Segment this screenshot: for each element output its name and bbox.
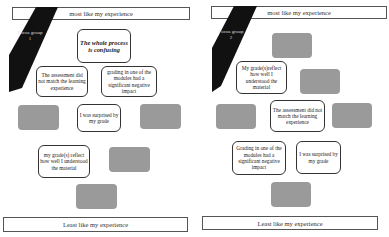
focus-group-label: Focus group 1 bbox=[16, 30, 44, 42]
statement-card: The assessment did not match the learnin… bbox=[36, 66, 88, 97]
statement-card: my grade(s) reflect how well I understoo… bbox=[38, 145, 90, 178]
empty-slot bbox=[140, 104, 181, 129]
focus-group-2-panel: most like my experience Focus group 2 My… bbox=[194, 0, 388, 237]
empty-slot bbox=[109, 147, 150, 172]
statement-card: I was surprised by my grade bbox=[296, 141, 341, 174]
empty-slot bbox=[272, 33, 312, 58]
statement-card: Grading in one of the modules had a sign… bbox=[232, 141, 286, 175]
statement-card: grading in one of the modules had a sign… bbox=[101, 66, 157, 97]
focus-group-label: Focus group 2 bbox=[218, 29, 244, 41]
bottom-label: Least like my experience bbox=[202, 216, 378, 230]
empty-slot bbox=[18, 105, 59, 130]
empty-slot bbox=[300, 69, 340, 94]
empty-slot bbox=[332, 103, 372, 128]
statement-card: My grade(s)reflect how well I understood… bbox=[236, 61, 287, 94]
statement-card: The whole process is confusing bbox=[77, 29, 131, 63]
empty-slot bbox=[216, 104, 256, 129]
empty-slot bbox=[271, 182, 311, 207]
empty-slot bbox=[76, 184, 117, 209]
statement-card: The assessment did not match the learnin… bbox=[270, 100, 325, 132]
focus-group-1-panel: most like my experience Focus group 1 Th… bbox=[0, 0, 194, 237]
bottom-label: Least like my experience bbox=[3, 217, 188, 232]
statement-card: I was surprised by my grade bbox=[77, 104, 121, 132]
